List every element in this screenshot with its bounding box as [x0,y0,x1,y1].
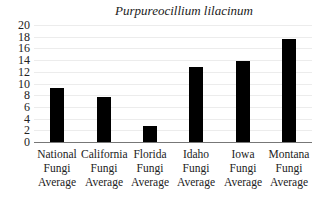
bar [236,61,250,142]
x-tick-label: NationalFungiAverage [34,147,80,189]
bar [143,126,157,142]
gridline [34,60,312,61]
bar [282,39,296,142]
x-tick-label: IdahoFungiAverage [173,147,219,189]
x-tick-label: FloridaFungiAverage [127,147,173,189]
x-tick-label: CaliforniaFungiAverage [81,147,127,189]
gridline [34,84,312,85]
x-axis-line [34,142,312,143]
bar [97,97,111,142]
y-tick-label: 20 [0,19,30,31]
y-tick-label: 12 [0,66,30,78]
gridline [34,119,312,120]
y-tick-label: 10 [0,78,30,90]
y-tick-label: 0 [0,136,30,148]
bar [50,88,64,142]
gridline [34,107,312,108]
gridline [34,37,312,38]
y-tick-label: 14 [0,54,30,66]
gridline [34,130,312,131]
chart-title: Purpureocillium lilacinum [0,3,328,19]
y-tick-label: 18 [0,31,30,43]
gridline [34,25,312,26]
gridline [34,95,312,96]
x-tick-label: MontanaFungiAverage [266,147,312,189]
y-tick-label: 6 [0,101,30,113]
bar [189,67,203,142]
gridline [34,72,312,73]
gridline [34,48,312,49]
y-tick-label: 4 [0,113,30,125]
x-tick-label: IowaFungiAverage [220,147,266,189]
